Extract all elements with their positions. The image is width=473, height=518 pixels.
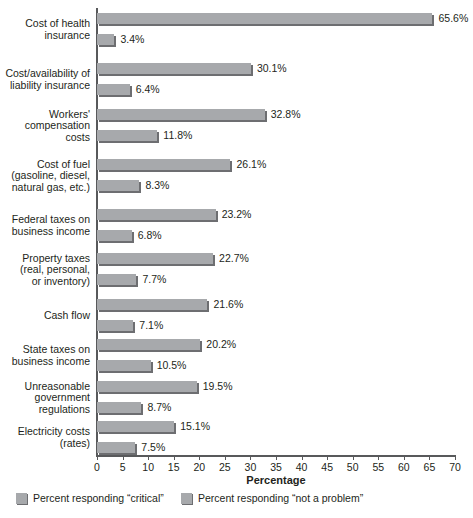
legend-swatch-not-a-problem bbox=[181, 493, 192, 504]
bar-shadow-right bbox=[432, 15, 434, 26]
category-label-line: or inventory) bbox=[0, 276, 90, 288]
bar-group: 19.5%8.7% bbox=[97, 378, 473, 420]
bar-shadow-right bbox=[136, 276, 138, 287]
category-label: Electricity costs(rates) bbox=[0, 426, 90, 449]
x-tick bbox=[378, 455, 379, 460]
bar-shadow-right bbox=[265, 111, 267, 122]
bar-critical[interactable] bbox=[97, 13, 432, 24]
bar-shadow bbox=[99, 371, 153, 373]
x-tick bbox=[225, 455, 226, 460]
bar-critical[interactable] bbox=[97, 339, 200, 350]
bar-not-a-problem[interactable] bbox=[97, 360, 151, 371]
bar-shadow-right bbox=[133, 322, 135, 333]
bar-shadow-right bbox=[230, 161, 232, 172]
bar-chart: Cost of healthinsurance65.6%3.4%Cost/ava… bbox=[0, 0, 473, 518]
category-label-line: insurance bbox=[0, 30, 90, 42]
bar-shadow bbox=[99, 453, 137, 455]
x-axis-title: Percentage bbox=[97, 474, 455, 486]
value-label-not-a-problem: 8.7% bbox=[147, 401, 171, 413]
value-label-not-a-problem: 7.1% bbox=[139, 319, 163, 331]
bar-critical[interactable] bbox=[97, 253, 213, 264]
legend-item-critical[interactable]: Percent responding “critical” bbox=[16, 492, 164, 505]
bar-not-a-problem[interactable] bbox=[97, 402, 141, 413]
chart-row: Cost of fuel(gasoline, diesel,natural ga… bbox=[0, 156, 473, 198]
bar-critical[interactable] bbox=[97, 209, 216, 220]
chart-row: Property taxes(real, personal,or invento… bbox=[0, 250, 473, 292]
x-tick-label: 60 bbox=[398, 461, 410, 473]
bar-not-a-problem[interactable] bbox=[97, 320, 133, 331]
value-label-critical: 21.6% bbox=[213, 298, 243, 310]
legend-item-not-a-problem[interactable]: Percent responding “not a problem” bbox=[181, 492, 363, 505]
x-tick-label: 0 bbox=[94, 461, 100, 473]
x-tick-label: 45 bbox=[321, 461, 333, 473]
bar-not-a-problem[interactable] bbox=[97, 274, 136, 285]
bar-not-a-problem[interactable] bbox=[97, 130, 157, 141]
bar-shadow bbox=[99, 310, 209, 312]
bar-not-a-problem[interactable] bbox=[97, 442, 135, 453]
category-label: Unreasonablegovernmentregulations bbox=[0, 381, 90, 416]
value-label-not-a-problem: 8.3% bbox=[145, 179, 169, 191]
category-label-line: Cash flow bbox=[0, 310, 90, 322]
bar-shadow bbox=[99, 95, 132, 97]
bar-shadow-right bbox=[139, 182, 141, 193]
category-label: Cash flow bbox=[0, 310, 90, 322]
bar-shadow bbox=[99, 432, 176, 434]
value-label-not-a-problem: 3.4% bbox=[120, 33, 144, 45]
chart-row: Cost of healthinsurance65.6%3.4% bbox=[0, 10, 473, 52]
bar-shadow bbox=[99, 120, 267, 122]
category-label: Federal taxes onbusiness income bbox=[0, 214, 90, 237]
bar-shadow bbox=[99, 264, 215, 266]
x-tick-label: 25 bbox=[219, 461, 231, 473]
bar-critical[interactable] bbox=[97, 421, 174, 432]
bar-shadow-right bbox=[251, 65, 253, 76]
bar-shadow-right bbox=[216, 211, 218, 222]
bar-shadow bbox=[99, 191, 141, 193]
x-tick-label: 30 bbox=[245, 461, 257, 473]
category-label-line: regulations bbox=[0, 404, 90, 416]
bar-not-a-problem[interactable] bbox=[97, 230, 132, 241]
bar-not-a-problem[interactable] bbox=[97, 180, 139, 191]
chart-row: Workers'compensationcosts32.8%11.8% bbox=[0, 106, 473, 148]
bar-shadow-right bbox=[135, 444, 137, 455]
bar-critical[interactable] bbox=[97, 299, 207, 310]
value-label-critical: 19.5% bbox=[203, 380, 233, 392]
x-tick-label: 20 bbox=[193, 461, 205, 473]
x-tick bbox=[97, 455, 98, 460]
chart-row: Cost/availability ofliability insurance3… bbox=[0, 60, 473, 102]
bar-not-a-problem[interactable] bbox=[97, 34, 114, 45]
category-label-line: costs bbox=[0, 132, 90, 144]
x-tick bbox=[199, 455, 200, 460]
category-label-line: business income bbox=[0, 356, 90, 368]
bar-shadow bbox=[99, 413, 143, 415]
legend-label-critical: Percent responding “critical” bbox=[33, 492, 164, 505]
bar-group: 26.1%8.3% bbox=[97, 156, 473, 198]
x-tick bbox=[250, 455, 251, 460]
value-label-not-a-problem: 7.7% bbox=[142, 273, 166, 285]
chart-row: Federal taxes onbusiness income23.2%6.8% bbox=[0, 206, 473, 248]
bar-critical[interactable] bbox=[97, 63, 251, 74]
bar-group: 21.6%7.1% bbox=[97, 296, 473, 338]
x-tick bbox=[123, 455, 124, 460]
bar-critical[interactable] bbox=[97, 159, 230, 170]
bar-critical[interactable] bbox=[97, 381, 197, 392]
bar-critical[interactable] bbox=[97, 109, 265, 120]
x-tick-label: 15 bbox=[168, 461, 180, 473]
x-tick-label: 10 bbox=[142, 461, 154, 473]
chart-row: Unreasonablegovernmentregulations19.5%8.… bbox=[0, 378, 473, 420]
bar-shadow-right bbox=[141, 404, 143, 415]
x-tick bbox=[404, 455, 405, 460]
bar-shadow bbox=[99, 350, 202, 352]
x-tick-label: 5 bbox=[120, 461, 126, 473]
category-label-line: (rates) bbox=[0, 438, 90, 450]
bar-shadow-right bbox=[130, 86, 132, 97]
value-label-critical: 23.2% bbox=[222, 208, 252, 220]
x-tick-label: 35 bbox=[270, 461, 282, 473]
x-tick bbox=[148, 455, 149, 460]
bar-shadow bbox=[99, 74, 253, 76]
legend: Percent responding “critical” Percent re… bbox=[16, 492, 456, 508]
chart-row: Electricity costs(rates)15.1%7.5% bbox=[0, 418, 473, 460]
value-label-critical: 26.1% bbox=[236, 158, 266, 170]
value-label-critical: 65.6% bbox=[438, 12, 468, 24]
bar-not-a-problem[interactable] bbox=[97, 84, 130, 95]
bar-shadow bbox=[99, 170, 232, 172]
